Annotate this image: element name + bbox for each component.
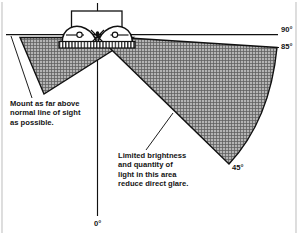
mount-note-label: Mount as far above normal line of sight … (10, 99, 118, 127)
angle-label-85: 85° (281, 42, 292, 51)
glare-note-label: Limited brightness and quantity of light… (118, 151, 230, 189)
angle-label-45: 45° (232, 163, 243, 172)
angle-label-0: 0° (94, 219, 101, 228)
diagram-canvas: Mount as far above normal line of sight … (0, 0, 298, 235)
angle-label-90: 90° (281, 25, 292, 34)
right-glare-control-zone (98, 36, 278, 164)
recessed-luminaire (59, 11, 135, 48)
louver-panel (59, 42, 135, 49)
glare-note-leader-line (146, 113, 173, 150)
